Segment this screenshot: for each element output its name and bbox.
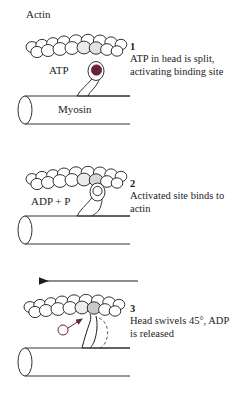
myosin-head-swiveled-step3 <box>82 314 97 348</box>
myosin-rod-step3 <box>18 348 130 376</box>
step-3-number: 3 <box>130 303 234 315</box>
adp-p-label: ADP + P <box>31 196 70 207</box>
step-2-text: Activated site binds to actin <box>130 190 224 213</box>
actin-filament-step2 <box>26 166 127 189</box>
panel-3-illustration <box>18 281 138 376</box>
myosin-rod-step2 <box>18 216 130 244</box>
atp-label: ATP <box>49 65 69 76</box>
step-1-text: ATP in head is split, activating binding… <box>130 53 223 76</box>
myosin-head-step1 <box>77 62 104 97</box>
step-3-caption: 3 Head swivels 45°, ADP is released <box>130 303 234 340</box>
step-2-number: 2 <box>130 178 234 190</box>
released-adp-icon <box>58 319 82 335</box>
step-2-caption: 2 Activated site binds to actin <box>130 178 234 215</box>
actin-filament-step1 <box>26 34 127 57</box>
previous-head-position-outline <box>98 318 108 349</box>
step-1-number: 1 <box>130 41 234 53</box>
figure-actin-myosin-cycle: Actin ATP Myosin ADP + P 1 ATP in head i… <box>0 0 234 403</box>
myosin-head-step2 <box>77 183 105 216</box>
step-3-text: Head swivels 45°, ADP is released <box>130 315 229 338</box>
step-1-caption: 1 ATP in head is split, activating bindi… <box>130 41 234 78</box>
actin-filament-step3 <box>24 294 125 317</box>
actin-label: Actin <box>26 9 50 20</box>
myosin-label: Myosin <box>58 104 92 115</box>
